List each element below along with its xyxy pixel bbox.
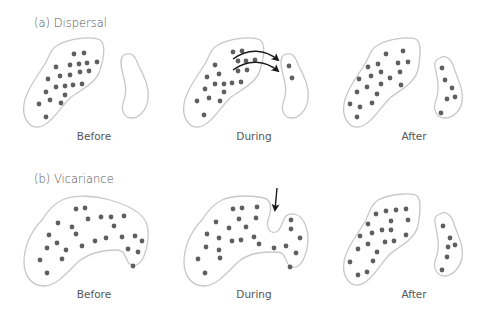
biogeography-diagram: (a) Dispersal Before	[0, 0, 487, 317]
panel-title-vicariance: (b) Vicariance	[34, 172, 114, 186]
population-dots	[195, 49, 295, 118]
vicariance-during: During	[184, 188, 308, 300]
population-dots	[38, 206, 145, 276]
population-dots	[348, 49, 458, 120]
stage-label: During	[236, 288, 271, 300]
vicariance-after: After	[344, 194, 463, 300]
mainland-region	[344, 194, 421, 285]
panel-title-dispersal: (a) Dispersal	[34, 16, 107, 30]
island-region	[281, 54, 309, 118]
island-region	[435, 57, 463, 118]
vicariance-before: Before	[24, 196, 148, 300]
dispersal-before: Before	[24, 38, 149, 142]
mainland-region	[24, 38, 104, 127]
panel-vicariance: (b) Vicariance Before	[24, 172, 462, 300]
stage-label: Before	[77, 288, 111, 300]
population-dots	[348, 207, 458, 278]
island-region	[121, 54, 149, 118]
stage-label: After	[401, 288, 427, 300]
continent-region	[184, 196, 308, 286]
dispersal-after: After	[344, 38, 463, 142]
stage-label: After	[401, 130, 427, 142]
isolated-region	[435, 213, 463, 276]
stage-label: During	[236, 130, 271, 142]
dispersal-during: During	[184, 38, 309, 142]
barrier-arrow	[275, 188, 277, 210]
panel-dispersal: (a) Dispersal Before	[24, 16, 463, 142]
stage-label: Before	[77, 130, 111, 142]
